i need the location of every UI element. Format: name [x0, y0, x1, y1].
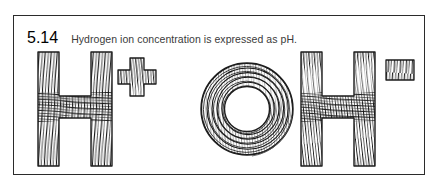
chemical-formula-illustration	[14, 46, 426, 174]
letter-h-second-icon	[297, 46, 381, 174]
letter-h-first-icon	[34, 46, 118, 174]
superscript-plus-icon	[114, 54, 162, 102]
letter-o-icon	[197, 46, 299, 174]
figure-caption: 5.14 Hydrogen ion concentration is expre…	[27, 29, 297, 47]
superscript-minus-icon	[382, 56, 420, 86]
figure-panel: 5.14 Hydrogen ion concentration is expre…	[13, 15, 425, 175]
caption-text: Hydrogen ion concentration is expressed …	[71, 33, 297, 45]
caption-number: 5.14	[27, 29, 58, 47]
